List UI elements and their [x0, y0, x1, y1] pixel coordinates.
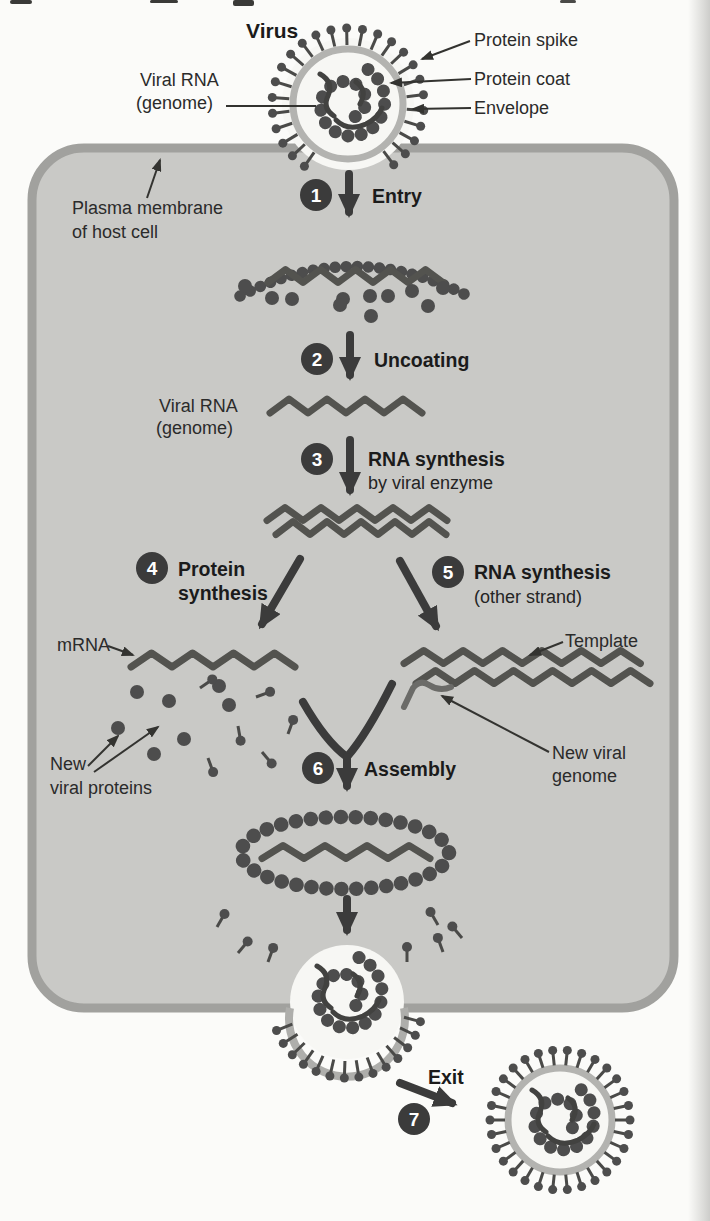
protein-spike-head [354, 1073, 363, 1082]
protein-spike-icon [604, 1152, 614, 1159]
protein-spike-head [373, 30, 382, 39]
spike-protein-head [288, 715, 298, 725]
protein-spike-head [591, 1176, 600, 1185]
protein-spike-head [403, 1043, 412, 1052]
step-5-label: RNA synthesis [474, 561, 611, 583]
protein-spike-head [286, 50, 295, 59]
caption-remnant-mark [233, 0, 254, 6]
protein-bead [222, 698, 236, 712]
protein-spike-head [271, 77, 280, 86]
step-1-number: 1 [311, 185, 322, 206]
protein-spike-head [521, 1055, 530, 1064]
protein-spike-head [416, 122, 425, 131]
step-7-label: Exit [428, 1066, 464, 1088]
step-4-label-line2: synthesis [178, 582, 268, 604]
protein-spike-head [492, 1087, 501, 1096]
protein-spike-icon [566, 1175, 567, 1187]
protein-bead [177, 732, 191, 746]
protein-bead [265, 291, 279, 305]
protein-spike-label: Protein spike [474, 30, 578, 50]
protein-spike-head [626, 1116, 635, 1125]
protein-bead [333, 298, 347, 312]
spike-protein-head [402, 942, 412, 952]
protein-spike-head [268, 109, 277, 118]
protein-bead [421, 299, 435, 313]
protein-spike-head [534, 1049, 543, 1058]
spike-protein-head [433, 933, 443, 943]
protein-spike-head [409, 60, 418, 69]
protein-bead [363, 289, 377, 303]
protein-spike-icon [539, 1172, 543, 1183]
protein-spike-head [300, 162, 309, 171]
protein-spike-head [612, 1157, 621, 1166]
protein-spike-head [591, 1055, 600, 1064]
protein-spike-icon [553, 1175, 554, 1187]
protein-bead [147, 747, 161, 761]
step-6-label: Assembly [364, 758, 456, 780]
protein-spike-head [624, 1130, 633, 1139]
new-viral-proteins-label-line1: New [50, 754, 87, 774]
protein-spike-head [486, 1116, 495, 1125]
step-5-number: 5 [443, 562, 454, 583]
protein-spike-icon [494, 1106, 506, 1108]
protein-bead [285, 292, 299, 306]
protein-spike-head [487, 1101, 496, 1110]
protein-spike-head [387, 37, 396, 46]
plasma-membrane-label-line1: Plasma membrane [72, 198, 223, 218]
textbook-figure-virus-replication: Virus Protein spike Protein coat Envelop… [0, 0, 710, 1221]
protein-spike-head [399, 48, 408, 57]
spike-protein-head [267, 758, 277, 768]
step-5-sublabel: (other strand) [474, 587, 582, 607]
step-4-label-line1: Protein [178, 558, 245, 580]
protein-spike-head [299, 1060, 308, 1069]
spike-protein-head [243, 937, 253, 947]
envelope-label: Envelope [474, 98, 549, 118]
mrna-label: mRNA [57, 635, 110, 655]
spike-protein-head [236, 736, 246, 746]
protein-spike-head [499, 1157, 508, 1166]
protein-spike-head [312, 1067, 321, 1076]
protein-spike-icon [577, 1056, 581, 1067]
protein-spike-head [563, 1046, 572, 1055]
protein-spike-head [499, 1074, 508, 1083]
protein-spike-icon [506, 1152, 516, 1159]
protein-spike-icon [275, 98, 289, 99]
protein-spike-icon [515, 1070, 523, 1079]
protein-spike-head [298, 39, 307, 48]
step-2-label: Uncoating [374, 349, 469, 371]
protein-spike-head [410, 136, 419, 145]
protein-spike-head [368, 1069, 377, 1078]
viral-rna-label-line2: (genome) [136, 93, 213, 113]
plasma-membrane-label-line2: of host cell [72, 222, 158, 242]
protein-bead [130, 685, 144, 699]
protein-spike-head [534, 1182, 543, 1191]
protein-bead [381, 289, 395, 303]
step-7-number: 7 [409, 1109, 420, 1130]
step-2-number: 2 [312, 349, 323, 370]
protein-bead [238, 279, 252, 293]
protein-spike-head [602, 1063, 611, 1072]
protein-spike-head [278, 139, 287, 148]
protein-spike-head [419, 106, 428, 115]
released-virion-envelope [508, 1068, 612, 1172]
protein-spike-head [577, 1049, 586, 1058]
protein-spike-icon [588, 1062, 594, 1072]
protein-spike-pointer [422, 41, 470, 59]
protein-spike-icon [499, 1093, 510, 1098]
protein-spike-head [619, 1087, 628, 1096]
protein-spike-head [272, 124, 281, 133]
protein-spike-head [382, 1063, 391, 1072]
step-3-number: 3 [312, 449, 323, 470]
step-3-sublabel: by viral enzyme [368, 473, 493, 493]
protein-spike-icon [577, 1172, 581, 1183]
caption-remnant-mark [10, 0, 32, 4]
protein-spike-head [521, 1176, 530, 1185]
protein-spike-head [411, 1031, 420, 1040]
spike-protein-head [265, 687, 275, 697]
spike-protein-head [447, 922, 457, 932]
spike-protein-head [208, 767, 218, 777]
protein-spike-head [401, 149, 410, 158]
caption-remnant-mark [560, 0, 576, 3]
figure-caption-remnant [10, 0, 576, 6]
spike-protein-head [426, 907, 436, 917]
